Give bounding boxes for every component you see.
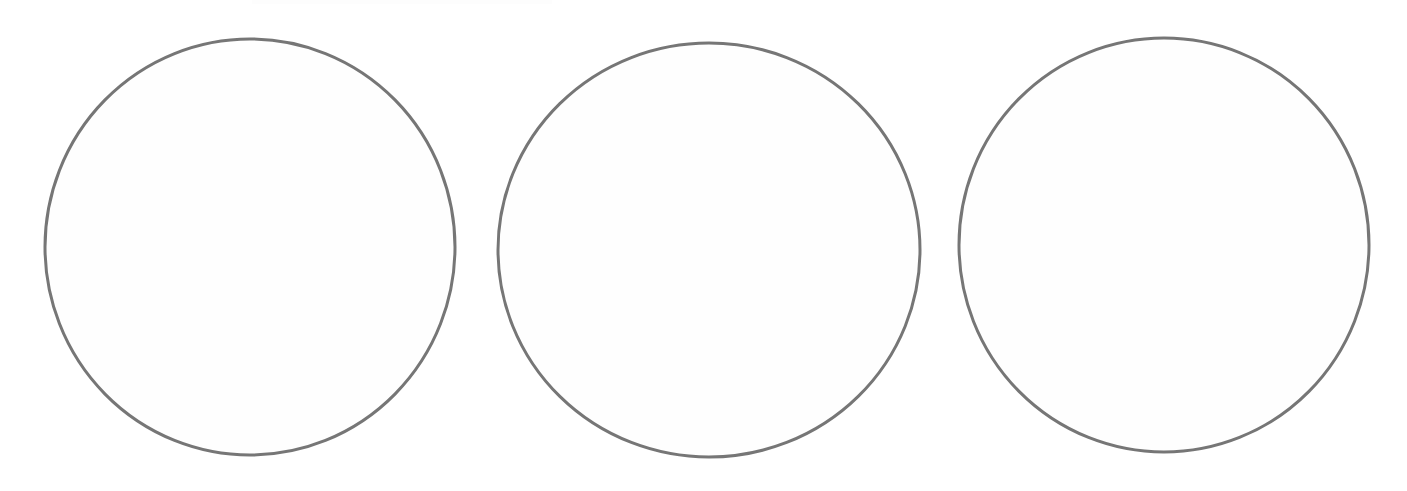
circle-2 [498, 43, 920, 457]
circle-3 [959, 38, 1369, 452]
circle-1 [45, 39, 455, 455]
figure-canvas [0, 0, 1407, 491]
circles-figure [0, 0, 1407, 491]
